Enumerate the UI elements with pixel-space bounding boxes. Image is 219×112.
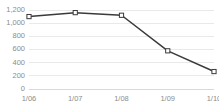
y-tick-label: 600 bbox=[12, 44, 25, 53]
x-tick-label: 1/09 bbox=[160, 94, 175, 103]
data-point-marker bbox=[119, 13, 123, 17]
x-tick-label: 1/10 bbox=[207, 94, 219, 103]
data-point-markers bbox=[27, 11, 216, 74]
chart-canvas: 02004006008001,0001,200 1/061/071/081/09… bbox=[0, 0, 219, 112]
x-axis-tick-labels: 1/061/071/081/091/10 bbox=[22, 94, 219, 103]
y-tick-label: 400 bbox=[12, 58, 25, 67]
y-tick-label: 1,000 bbox=[6, 18, 25, 27]
line-chart: 02004006008001,0001,200 1/061/071/081/09… bbox=[0, 0, 219, 112]
y-tick-label: 200 bbox=[12, 71, 25, 80]
x-tick-label: 1/07 bbox=[68, 94, 83, 103]
y-tick-label: 1,200 bbox=[6, 5, 25, 14]
y-tick-label: 0 bbox=[21, 84, 25, 93]
y-axis-tick-labels: 02004006008001,0001,200 bbox=[6, 5, 25, 93]
x-tick-label: 1/08 bbox=[114, 94, 129, 103]
data-point-marker bbox=[27, 14, 31, 18]
data-point-marker bbox=[166, 49, 170, 53]
y-tick-label: 800 bbox=[12, 31, 25, 40]
gridlines bbox=[29, 10, 214, 89]
x-tick-label: 1/06 bbox=[22, 94, 37, 103]
data-point-marker bbox=[212, 69, 216, 73]
data-point-marker bbox=[73, 11, 77, 15]
